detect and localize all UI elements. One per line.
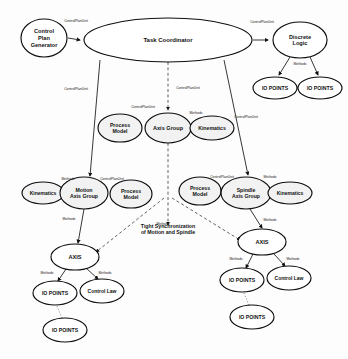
node-io-points-right[interactable]: IO POINTS [220, 268, 264, 292]
node-label-discrete-logic: Discrete [289, 34, 311, 40]
node-io-points-dl-right[interactable]: IO POINTS [298, 77, 342, 99]
edge-label-motion-methods-label: Methods [61, 177, 74, 181]
node-task-coordinator[interactable]: Task Coordinator [84, 18, 252, 62]
edge-label-dl-to-io-left: Methods [293, 62, 306, 66]
edge-label-spindle-cpu-label: ControlPlanUnit [210, 175, 234, 179]
node-io-points-left-2[interactable]: IO POINTS [43, 318, 87, 342]
edge-io-right-link [244, 293, 249, 305]
node-label-axis-group: Axis Group [153, 125, 184, 131]
node-label-process-model-center: Model [113, 128, 129, 134]
node-label-process-model-left: Model [124, 194, 140, 200]
node-label-io-points-dl-right: IO POINTS [307, 85, 334, 91]
edge-label-tc-to-axisgroup: ControlPlanUnit [176, 86, 200, 90]
node-label-control-plan-generator: Control [34, 28, 54, 34]
diagram-svg: ControlPlanGeneratorTask CoordinatorDisc… [0, 0, 348, 359]
edge-tc-to-motion [90, 60, 100, 176]
edge-io-left-link [57, 306, 62, 318]
edge-axisright-to-cl [274, 254, 285, 266]
edge-label-axisleft-to-cl: Methods [98, 271, 111, 275]
node-io-points-dl-left[interactable]: IO POINTS [253, 77, 297, 99]
node-label-control-law-left: Control Law [88, 288, 117, 294]
edge-label-axisleft-to-io: Methods [40, 271, 53, 275]
node-label-process-model-left: Process [121, 188, 141, 194]
annotation-sync-note: Tight Synchronization [141, 223, 195, 229]
node-label-kinematics-left: Kinematics [30, 190, 57, 196]
node-label-control-law-right: Control Law [275, 275, 304, 281]
node-axis-left[interactable]: AXIS [51, 244, 99, 270]
node-label-axis-left: AXIS [68, 254, 81, 260]
edge-cpg-to-tc [68, 38, 80, 40]
node-label-io-points-right: IO POINTS [229, 277, 256, 283]
edge-label-spindle-to-axis: Methods [263, 218, 276, 222]
edge-label-axisgroup-cpu-label: ControlPlanUnit [131, 105, 155, 109]
edge-label-motion-to-axis: Methods [62, 217, 75, 221]
diagram-canvas: ControlPlanGeneratorTask CoordinatorDisc… [0, 0, 348, 359]
node-control-plan-generator[interactable]: ControlPlanGenerator [21, 19, 67, 57]
edge-axisleft-to-cl [86, 268, 98, 279]
node-label-motion-axis-group: Axis Group [70, 193, 98, 199]
node-axis-right[interactable]: AXIS [238, 229, 286, 255]
node-label-io-points-left-2: IO POINTS [52, 327, 79, 333]
node-control-law-right[interactable]: Control Law [267, 266, 311, 290]
node-label-kinematics-center: Kinematics [198, 125, 226, 131]
node-process-model-left[interactable]: ProcessModel [110, 180, 152, 208]
annotation-sync-note: of Motion and Spindle [141, 229, 195, 235]
node-motion-axis-group[interactable]: MotionAxis Group [60, 177, 108, 209]
edge-label-axisgroup-methods-label: Methods [189, 111, 202, 115]
edge-dl-to-io-right [310, 57, 318, 75]
node-label-control-plan-generator: Generator [31, 42, 59, 48]
node-label-discrete-logic: Logic [293, 40, 308, 46]
node-label-process-model-center: Process [110, 122, 130, 128]
annotations-layer: Tight Synchronizationof Motion and Spind… [141, 223, 195, 235]
node-process-model-center[interactable]: ProcessModel [98, 114, 142, 142]
edge-label-tc-to-motion: ControlPlanUnit [64, 87, 88, 91]
node-discrete-logic[interactable]: DiscreteLogic [273, 22, 327, 58]
node-label-spindle-axis-group: Spindle [237, 187, 256, 193]
edge-dl-to-io-left [279, 57, 290, 75]
node-process-model-right[interactable]: ProcessModel [179, 177, 221, 205]
node-axis-group[interactable]: Axis Group [145, 113, 191, 143]
node-control-law-left[interactable]: Control Law [80, 279, 124, 303]
node-label-spindle-axis-group: Axis Group [232, 193, 260, 199]
node-label-axis-right: AXIS [255, 239, 268, 245]
node-io-points-left[interactable]: IO POINTS [33, 281, 77, 305]
edge-label-tc-to-dl: ControlPlanUnit [250, 20, 274, 24]
node-label-io-points-left: IO POINTS [42, 290, 69, 296]
node-kinematics-right[interactable]: Kinematics [268, 182, 312, 204]
edge-label-axisright-to-io: Methods [229, 257, 242, 261]
edge-axisright-to-io [246, 254, 253, 268]
node-label-task-coordinator: Task Coordinator [143, 37, 193, 43]
node-kinematics-left[interactable]: Kinematics [22, 182, 64, 204]
edge-motion-to-axis [78, 209, 84, 243]
edge-axisleft-to-io [58, 269, 66, 281]
node-spindle-axis-group[interactable]: SpindleAxis Group [221, 177, 271, 209]
node-label-control-plan-generator: Plan [38, 35, 50, 41]
edge-label-cpg-to-tc: ControlPlanUnit [64, 19, 88, 23]
node-label-io-points-right-2: IO POINTS [239, 314, 266, 320]
node-label-kinematics-right: Kinematics [277, 190, 304, 196]
edge-label-axisright-to-cl: Methods [286, 257, 299, 261]
edge-label-motion-cpu-label: ControlPlanUnit [100, 177, 124, 181]
node-label-process-model-right: Process [190, 185, 210, 191]
edge-spindle-to-axis [250, 209, 262, 228]
edge-label-spindle-methods-label: Methods [263, 175, 276, 179]
edge-label-tc-to-spindle: ControlPlanUnit [234, 115, 258, 119]
node-label-motion-axis-group: Motion [76, 187, 93, 193]
node-io-points-right-2[interactable]: IO POINTS [230, 305, 274, 329]
node-label-process-model-right: Model [193, 191, 209, 197]
node-label-io-points-dl-left: IO POINTS [262, 85, 289, 91]
node-kinematics-center[interactable]: Kinematics [190, 116, 234, 140]
